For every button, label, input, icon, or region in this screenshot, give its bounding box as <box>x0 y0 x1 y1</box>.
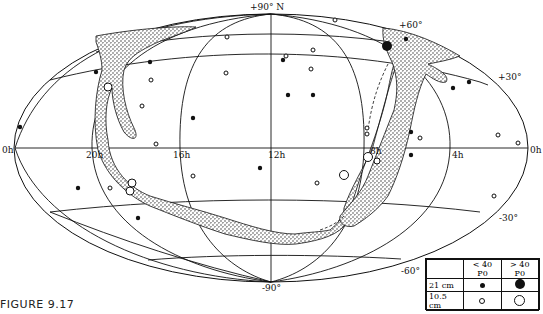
legend-header-low: < 40 P0 <box>464 260 501 279</box>
lat-plus30-label: +30° <box>498 72 522 82</box>
lat-minus60-label: -60° <box>401 266 420 276</box>
points-10cm-large <box>104 83 380 195</box>
filled-large-circle-icon <box>515 279 525 289</box>
filled-small-circle-icon <box>480 283 485 288</box>
points-21cm-large <box>382 41 392 51</box>
points-10cm-small <box>108 18 520 198</box>
dashed-line <box>368 64 388 130</box>
north-pole-label: +90° N <box>250 2 284 12</box>
legend-corner <box>427 260 464 279</box>
ra-0h-right-label: 0h <box>530 145 542 155</box>
figure-caption: FIGURE 9.17 <box>0 298 74 311</box>
legend-row-10cm: 10.5 cm <box>427 292 464 311</box>
open-large-circle-icon <box>514 295 525 306</box>
ra-0h-left-label: 0h <box>2 145 14 155</box>
lat-minus30-label: -30° <box>499 213 518 223</box>
lat-plus60-label: +60° <box>399 20 423 30</box>
open-small-circle-icon <box>479 298 485 304</box>
legend: < 40 P0 > 40 P0 21 cm 10.5 cm <box>425 258 540 310</box>
ra-20h-label: 20h <box>86 150 103 160</box>
ra-12h-label: 12h <box>268 150 285 160</box>
stippled-band-right <box>340 28 460 227</box>
ra-4h-label: 4h <box>452 150 464 160</box>
legend-header-high: > 40 P0 <box>501 260 538 279</box>
ra-16h-label: 16h <box>173 150 190 160</box>
ra-8h-label: 8h <box>370 146 382 156</box>
south-pole-label: -90° <box>262 283 281 293</box>
legend-row-21cm: 21 cm <box>427 279 464 292</box>
